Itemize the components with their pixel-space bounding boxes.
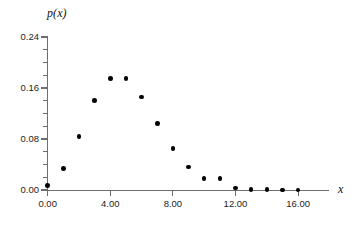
data-point xyxy=(124,76,129,81)
y-axis-tick xyxy=(41,36,47,37)
data-point xyxy=(108,76,113,81)
data-point xyxy=(186,165,191,170)
chart-figure: p(x) x 0.000.080.160.24 0.004.008.0012.0… xyxy=(0,0,355,227)
data-point xyxy=(202,176,207,181)
y-axis-tick-label: 0.00 xyxy=(12,184,39,195)
x-axis-tick xyxy=(47,191,48,196)
x-axis-line xyxy=(47,190,329,191)
x-axis-tick-label: 0.00 xyxy=(28,198,68,209)
y-axis-minor-tick xyxy=(43,62,47,63)
y-axis-minor-tick xyxy=(43,164,47,165)
data-point xyxy=(265,187,270,192)
y-axis-minor-tick xyxy=(43,177,47,178)
data-point xyxy=(61,166,66,171)
data-point xyxy=(171,146,176,151)
y-axis-tick xyxy=(41,87,47,88)
data-point xyxy=(218,176,223,181)
data-point xyxy=(155,121,160,126)
x-axis-title: x xyxy=(338,182,343,197)
x-axis-tick-label: 4.00 xyxy=(90,198,130,209)
data-point xyxy=(296,188,301,193)
data-point xyxy=(280,188,285,193)
y-axis-minor-tick xyxy=(43,75,47,76)
x-axis-tick-label: 12.00 xyxy=(216,198,256,209)
y-axis-minor-tick xyxy=(43,126,47,127)
y-axis-minor-tick xyxy=(43,49,47,50)
data-point xyxy=(92,98,97,103)
y-axis-tick-label: 0.08 xyxy=(12,133,39,144)
y-axis-tick-label: 0.16 xyxy=(12,82,39,93)
y-axis-tick xyxy=(41,138,47,139)
plot-area: p(x) x 0.000.080.160.24 0.004.008.0012.0… xyxy=(0,0,355,227)
y-axis-minor-tick xyxy=(43,151,47,152)
x-axis-tick-label: 8.00 xyxy=(153,198,193,209)
x-axis-tick xyxy=(235,191,236,196)
data-point xyxy=(139,95,144,100)
data-point xyxy=(233,186,238,191)
y-axis-tick xyxy=(41,189,47,190)
y-axis-title: p(x) xyxy=(47,6,67,21)
y-axis-minor-tick xyxy=(43,113,47,114)
y-axis-line xyxy=(47,36,48,191)
data-point xyxy=(77,134,82,139)
y-axis-minor-tick xyxy=(43,100,47,101)
data-point xyxy=(249,187,254,192)
y-axis-tick-label: 0.24 xyxy=(12,31,39,42)
x-axis-tick-label: 16.00 xyxy=(278,198,318,209)
x-axis-tick xyxy=(172,191,173,196)
x-axis-tick xyxy=(110,191,111,196)
data-point xyxy=(45,183,50,188)
